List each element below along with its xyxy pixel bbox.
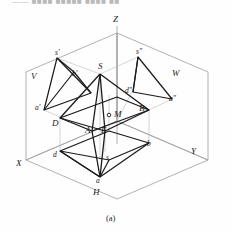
space-label-b: B xyxy=(139,104,145,113)
pyramid-edge-eb xyxy=(105,110,149,131)
top-label-a: a xyxy=(96,177,100,185)
pyramid-edge-sa xyxy=(92,74,100,131)
pyramid-edge-sd xyxy=(60,74,100,118)
front-label-b: b' xyxy=(72,70,77,78)
side-label-a: a" xyxy=(169,95,176,103)
plane-label-w: W xyxy=(172,69,180,78)
plane-label-v: V xyxy=(31,72,37,81)
top-label-s: s xyxy=(106,154,109,162)
side-view-outline xyxy=(133,57,172,99)
axis-label-x: X xyxy=(16,159,22,168)
top-label-d: d xyxy=(53,151,57,159)
figure-caption: (a) xyxy=(106,213,115,223)
space-label-m: M xyxy=(114,110,122,119)
side-view-edge-sd xyxy=(133,57,138,92)
axis-label-z: Z xyxy=(113,15,118,24)
point-marker-m xyxy=(107,113,111,117)
space-label-s: S xyxy=(98,62,103,71)
pyramid-edge-de xyxy=(60,118,105,131)
pyramid-trace-sa-down xyxy=(92,131,100,177)
proj-line-s-side xyxy=(100,57,138,74)
construction-lines xyxy=(44,57,172,160)
figure-canvas: —— ■■■■ ■■■■■ ■■■■ ■■ xyxy=(0,0,233,232)
front-label-a: a' xyxy=(35,104,40,112)
front-view-triangle xyxy=(44,58,91,110)
front-label-s: s' xyxy=(55,49,60,57)
side-label-s: s" xyxy=(136,48,142,56)
space-label-a: A xyxy=(85,126,91,135)
space-label-d: D xyxy=(52,119,59,128)
proj-line-s-front xyxy=(57,58,100,74)
side-label-d: d" xyxy=(125,87,132,95)
space-label-e: E xyxy=(101,126,107,135)
axis-label-y: Y xyxy=(191,147,196,156)
side-view-triangle xyxy=(133,57,172,99)
plane-label-h: H xyxy=(93,188,100,197)
top-label-b: b xyxy=(147,140,151,148)
